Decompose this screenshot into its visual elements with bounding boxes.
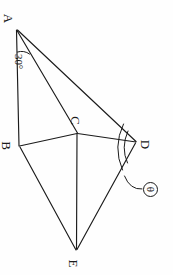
edge-b-e	[20, 147, 76, 250]
angle-label-30-degrees: 30°	[13, 54, 24, 69]
geometry-figure-canvas: A B C D E 30° θ	[0, 0, 173, 275]
vertex-label-b: B	[0, 141, 13, 150]
theta-symbol: θ	[145, 187, 156, 192]
edge-d-e	[77, 143, 136, 250]
theta-leader-line	[125, 176, 143, 189]
vertex-label-d: D	[139, 140, 152, 149]
vertex-label-e: E	[67, 260, 80, 268]
vertex-label-a: A	[2, 14, 15, 23]
geometry-figure-svg	[0, 0, 173, 275]
edge-b-c	[20, 134, 78, 147]
edge-c-e	[77, 134, 78, 249]
edge-c-d	[78, 134, 137, 143]
angle-arc-d-outer	[118, 124, 124, 170]
edge-a-b	[17, 30, 20, 146]
vertex-label-c: C	[69, 116, 82, 125]
theta-angle-badge: θ	[143, 182, 158, 197]
